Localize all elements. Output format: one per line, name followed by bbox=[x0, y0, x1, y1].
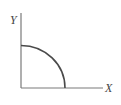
y-axis-label: Y bbox=[10, 13, 18, 27]
quarter-circle-curve bbox=[21, 46, 65, 89]
diagram-canvas: Y X bbox=[0, 0, 121, 105]
x-axis-label: X bbox=[104, 81, 113, 95]
